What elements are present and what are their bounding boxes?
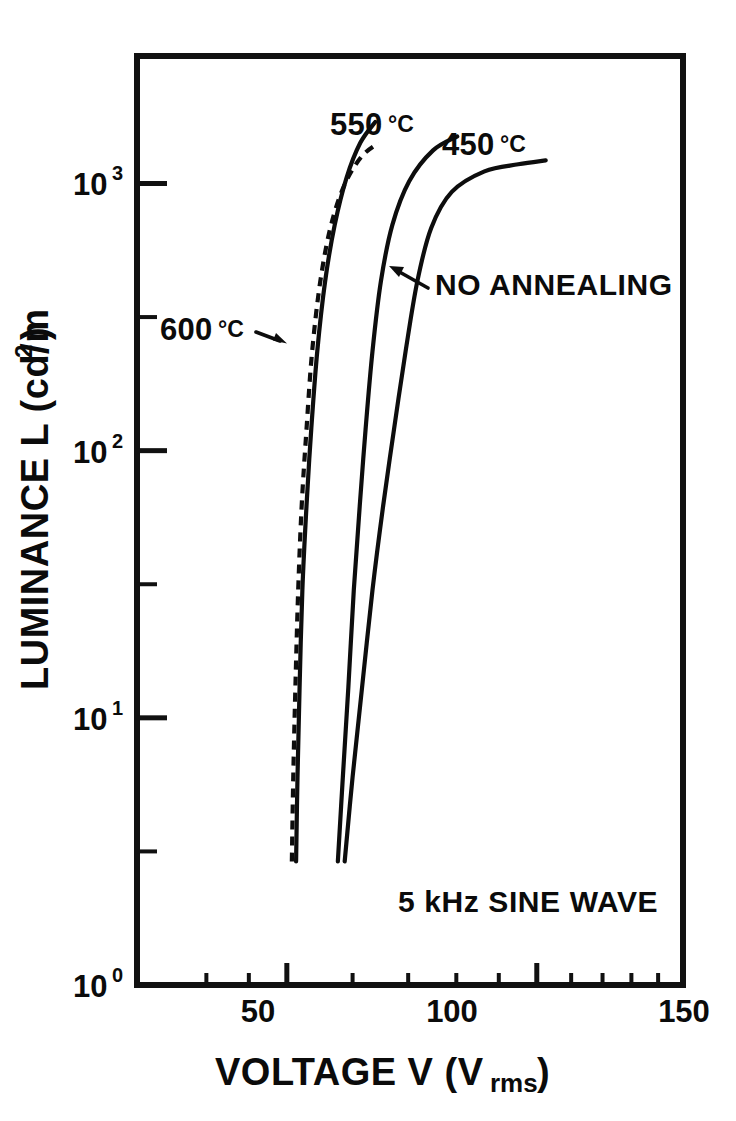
drive-condition-note: 5 kHz SINE WAVE (398, 885, 658, 918)
y-axis-title: LUMINANCE L (cd/m 2 ) (10, 309, 56, 690)
y-tick-mantissa-100: 10 (73, 435, 107, 470)
x-tick-label-100: 100 (426, 994, 478, 1029)
x-axis-title-subscript: rms (490, 1068, 538, 1098)
series-label-450c-value: 450 (442, 127, 495, 162)
series-label-550c-value: 550 (330, 107, 383, 142)
y-axis-title-tail: ) (14, 327, 56, 340)
y-tick-exponent-1000: 3 (112, 162, 123, 184)
y-tick-mantissa-1: 10 (73, 969, 107, 1004)
series-label-450c: 450 °C (442, 127, 526, 162)
y-tick-exponent-1: 0 (112, 964, 123, 986)
series-label-600c-value: 600 (160, 312, 213, 347)
y-axis-title-main: LUMINANCE L (cd/m (14, 309, 56, 690)
series-label-600c: 600 °C (160, 312, 244, 347)
y-tick-exponent-100: 2 (112, 430, 123, 452)
y-tick-exponent-10: 1 (112, 697, 123, 719)
x-axis-title-main: VOLTAGE V (V (215, 1051, 484, 1093)
x-tick-label-50: 50 (241, 994, 275, 1029)
series-label-no-annealing: NO ANNEALING (435, 268, 673, 301)
series-label-550c-unit: °C (388, 111, 414, 137)
figure-container: 50 100 150 10 3 10 2 10 1 10 0 (0, 0, 736, 1121)
y-axis-title-superscript: 2 (10, 345, 37, 358)
figure-background (0, 0, 736, 1121)
y-tick-mantissa-10: 10 (73, 702, 107, 737)
series-label-600c-unit: °C (218, 316, 244, 342)
x-tick-label-150: 150 (658, 994, 710, 1029)
x-axis-title-tail: ) (537, 1051, 550, 1093)
series-label-550c: 550 °C (330, 107, 414, 142)
luminance-voltage-chart: 50 100 150 10 3 10 2 10 1 10 0 (0, 0, 736, 1121)
series-label-450c-unit: °C (500, 131, 526, 157)
y-tick-mantissa-1000: 10 (73, 167, 107, 202)
